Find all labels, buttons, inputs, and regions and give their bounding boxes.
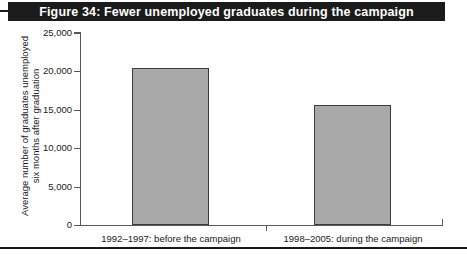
y-axis-tick [74,225,80,226]
bar [132,68,209,225]
figure-container: Figure 34: Fewer unemployed graduates du… [0,0,467,255]
y-axis-title: Average number of graduates unemployed s… [18,28,42,224]
bottom-rule [0,247,467,249]
y-axis-tick [74,33,80,34]
x-axis-line [80,225,443,226]
x-axis-end-tick [442,219,443,226]
y-axis-tick [74,187,80,188]
y-axis-title-line-2: six months after graduation [30,36,41,216]
y-axis-line [80,32,81,226]
y-axis-tick [74,110,80,111]
x-axis-separator-tick [266,225,267,231]
y-axis-tick [74,148,80,149]
y-axis-title-line-1: Average number of graduates unemployed [19,36,30,216]
y-axis-tick [74,71,80,72]
x-axis-category-label: 1998–2005: during the campaign [262,233,444,244]
x-axis-category-label: 1992–1997: before the campaign [80,233,262,244]
bar [314,105,391,225]
bar-chart-plot: 25,00020,00015,00010,0005,0000 1992–1997… [0,0,467,255]
